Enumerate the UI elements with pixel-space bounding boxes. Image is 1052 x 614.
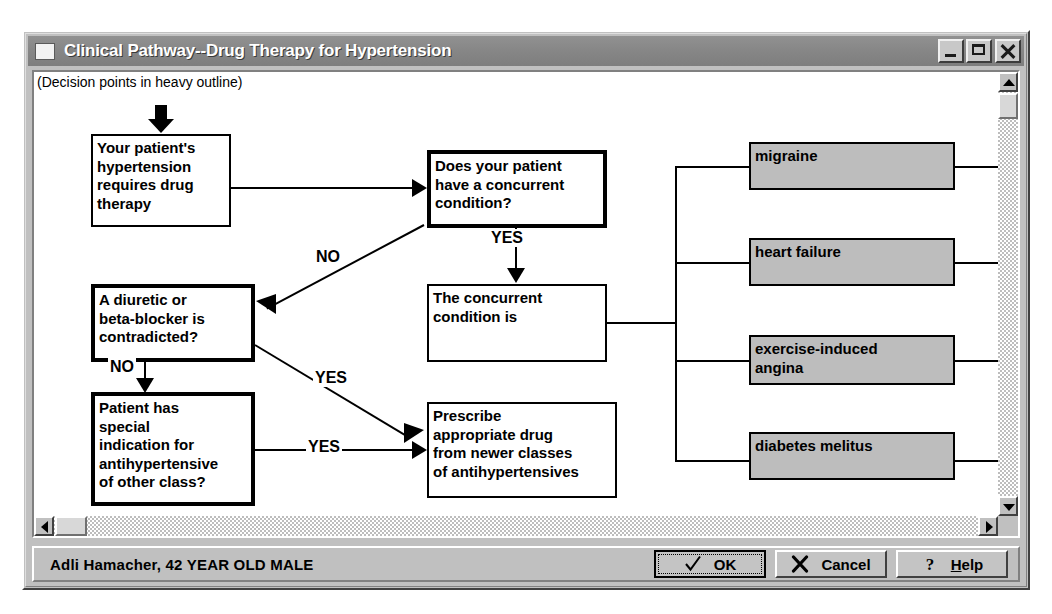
edge-indication-yes-arrow-icon (412, 441, 427, 459)
edge-label-diuretic-yes: YES (313, 369, 349, 387)
scroll-left-icon (41, 521, 48, 533)
application-window: Clinical Pathway--Drug Therapy for Hyper… (22, 30, 1030, 590)
edge-diuretic-no-arrow-icon (136, 378, 154, 393)
help-button-mnemonic: H (951, 556, 962, 573)
edge-label-concurrent-no: NO (314, 248, 342, 266)
edge-label-concurrent-yes: YES (489, 229, 525, 247)
scroll-right-icon (986, 521, 993, 533)
stub-heart-failure-right (953, 262, 998, 264)
checkmark-icon (684, 555, 702, 573)
cancel-button-label: Cancel (821, 556, 870, 573)
help-button[interactable]: ? Help (896, 550, 1008, 578)
dialog-button-group: OK Cancel ? Help (654, 550, 1008, 578)
condition-box-diabetes-melitus[interactable]: diabetes melitus (749, 432, 955, 480)
window-title: Clinical Pathway--Drug Therapy for Hyper… (64, 41, 936, 61)
edge-condition-to-bracket (607, 322, 677, 324)
condition-box-heart-failure[interactable]: heart failure (749, 238, 955, 286)
scroll-left-button[interactable] (34, 516, 54, 536)
scrollbar-corner (998, 516, 1018, 536)
edge-start-to-concurrent-arrow-icon (412, 179, 427, 197)
vertical-scrollbar[interactable] (998, 72, 1018, 516)
legend-note: (Decision points in heavy outline) (37, 74, 242, 90)
condition-box-exercise-angina[interactable]: exercise-induced angina (749, 335, 955, 385)
stub-migraine-right (953, 166, 998, 168)
status-bar: Adli Hamacher, 42 YEAR OLD MALE OK Cance (32, 546, 1020, 582)
bracket-branch-migraine (675, 166, 751, 168)
ok-button-label: OK (714, 556, 737, 573)
edge-start-to-concurrent (231, 187, 412, 189)
edge-label-indication-yes: YES (306, 438, 342, 456)
horizontal-scrollbar-thumb[interactable] (55, 516, 87, 536)
node-start[interactable]: Your patient's hypertension requires dru… (91, 134, 231, 227)
node-indication-question[interactable]: Patient has special indication for antih… (91, 392, 255, 506)
condition-box-migraine[interactable]: migraine (749, 142, 955, 190)
node-prescribe[interactable]: Prescribe appropriate drug from newer cl… (427, 402, 617, 498)
edge-concurrent-yes-arrow-icon (507, 268, 525, 283)
scroll-down-icon (1003, 504, 1015, 511)
edge-diuretic-yes-arrow-icon (404, 423, 424, 443)
vertical-scrollbar-thumb[interactable] (998, 93, 1018, 119)
node-concurrent-question[interactable]: Does your patient have a concurrent cond… (427, 150, 607, 228)
title-bar[interactable]: Clinical Pathway--Drug Therapy for Hyper… (28, 36, 1024, 66)
ok-button-focus-ring (658, 554, 762, 574)
node-diuretic-question[interactable]: A diuretic or beta-blocker is contradict… (91, 284, 255, 362)
question-mark-icon: ? (921, 555, 939, 573)
scroll-down-button[interactable] (998, 496, 1018, 516)
x-mark-icon (791, 555, 809, 573)
diagram-viewport: (Decision points in heavy outline) Your … (32, 70, 1020, 538)
stub-exercise-angina-right (953, 360, 998, 362)
app-window-icon (35, 43, 55, 60)
node-condition-is[interactable]: The concurrent condition is (427, 284, 607, 362)
svg-text:?: ? (925, 555, 934, 573)
scroll-up-icon (1003, 79, 1015, 86)
ok-button[interactable]: OK (654, 550, 766, 578)
bracket-branch-diabetes (675, 460, 751, 462)
horizontal-scrollbar[interactable] (34, 516, 998, 536)
edge-concurrent-no-arrow-icon (256, 294, 276, 314)
help-button-rest: elp (962, 556, 984, 573)
bracket-branch-heart-failure (675, 262, 751, 264)
edge-concurrent-no (266, 224, 424, 309)
help-button-label: Help (951, 556, 984, 573)
minimize-button[interactable] (938, 39, 964, 63)
scroll-up-button[interactable] (998, 72, 1018, 92)
maximize-button[interactable] (966, 39, 992, 63)
bracket-branch-exercise-angina (675, 360, 751, 362)
close-button[interactable] (995, 39, 1021, 63)
cancel-button[interactable]: Cancel (775, 550, 887, 578)
patient-info-label: Adli Hamacher, 42 YEAR OLD MALE (50, 556, 314, 573)
bracket-spine (675, 166, 677, 462)
edge-diuretic-yes (254, 344, 409, 438)
entry-arrow-icon (148, 105, 174, 133)
scroll-right-button[interactable] (978, 516, 998, 536)
flowchart-canvas[interactable]: (Decision points in heavy outline) Your … (34, 72, 998, 516)
edge-label-diuretic-no: NO (108, 358, 136, 376)
stub-diabetes-right (953, 460, 998, 462)
